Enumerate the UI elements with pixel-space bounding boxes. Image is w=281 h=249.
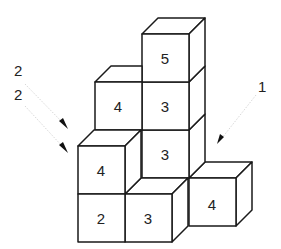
cube-label: 4 [114,98,122,115]
arrow-label-right: 1 [258,78,266,95]
cube-label: 3 [161,146,169,163]
cube-label: 4 [208,196,216,213]
arrow-guide-left-bottom [25,106,62,146]
cube-left-back-4: 4 [95,66,142,130]
cube-diagram: 2 2 1 4 3 3 5 4 3 4 [0,0,281,249]
cube-label: 2 [97,210,105,227]
arrowhead-left-top-icon [59,118,68,129]
arrow-guide-left-top [25,84,62,122]
cube-label: 3 [161,98,169,115]
arrow-label-left-top: 2 [14,62,22,79]
cube-right-4: 4 [189,162,252,226]
cube-label: 3 [144,210,152,227]
arrow-guide-right [222,95,256,138]
cube-front-left-2: 2 [78,194,125,242]
cube-front-left-4: 4 [78,130,141,194]
arrow-label-left-bottom: 2 [14,86,22,103]
cube-label: 4 [97,162,105,179]
cube-front-bottom-3: 3 [125,178,188,242]
cube-diagram-svg: 2 2 1 4 3 3 5 4 3 4 [0,0,281,249]
arrowhead-right-icon [217,134,224,144]
cube-label: 5 [161,50,169,67]
cube-top-5: 5 [142,18,205,82]
